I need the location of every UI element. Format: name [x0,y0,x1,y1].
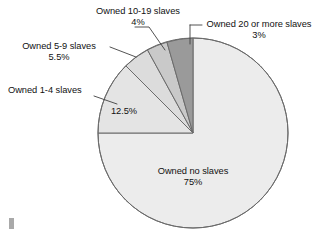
leader-line-owned-5-9-slaves [110,47,136,57]
label-owned-no-slaves: Owned no slaves 75% [133,166,253,188]
label-owned-5-9-slaves: Owned 5-9 slaves 5.5% [10,41,108,63]
pie-chart-figure: Owned 10-19 slaves 4% Owned 20 or more s… [0,0,322,237]
label-owned-5-9-slaves-name: Owned 5-9 slaves [22,41,96,51]
label-owned-1-4-slaves: Owned 1-4 slaves [8,85,96,96]
pie-slices [98,38,288,228]
label-owned-20-or-more-slaves-pct: 3% [198,30,320,41]
label-owned-no-slaves-name: Owned no slaves [158,166,229,176]
label-owned-10-19-slaves-pct: 4% [82,17,194,28]
label-owned-10-19-slaves-name: Owned 10-19 slaves [96,6,180,16]
label-owned-1-4-slaves-name: Owned 1-4 slaves [8,85,82,95]
label-owned-1-4-slaves-pct: 12.5% [111,106,137,116]
label-owned-20-or-more-slaves: Owned 20 or more slaves 3% [198,19,320,41]
label-owned-5-9-slaves-pct: 5.5% [10,52,108,63]
corner-mark [9,218,14,229]
label-owned-no-slaves-pct: 75% [133,177,253,188]
label-owned-1-4-slaves-pct-inside: 12.5% [94,106,154,117]
label-owned-10-19-slaves: Owned 10-19 slaves 4% [82,6,194,28]
label-owned-20-or-more-slaves-name: Owned 20 or more slaves [207,19,312,29]
